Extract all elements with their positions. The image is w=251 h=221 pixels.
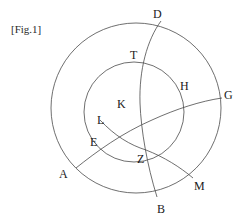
arc-d-t-k-z-b [140, 21, 161, 197]
point-label-d: D [153, 8, 162, 20]
point-label-a: A [59, 168, 68, 180]
figure-caption: [Fig.1] [11, 24, 41, 35]
inner-circle [84, 62, 184, 162]
point-label-m: M [194, 180, 205, 192]
point-label-b: B [157, 203, 165, 215]
point-label-h: H [180, 80, 189, 92]
arc-l-z-m [100, 120, 193, 178]
point-label-e: E [90, 136, 97, 148]
point-label-z: Z [137, 153, 144, 165]
point-label-l: L [97, 114, 104, 126]
point-label-k: K [117, 98, 126, 110]
arc-a-e-l-k-h-g [76, 98, 222, 168]
figure-container: [Fig.1] D T H G K L E A Z M B [0, 0, 251, 221]
point-label-g: G [224, 89, 233, 101]
point-label-t: T [130, 49, 137, 61]
